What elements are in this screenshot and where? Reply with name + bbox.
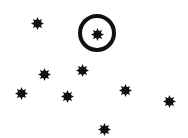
star-icon [98,123,111,136]
star-field-diagram [0,0,188,138]
star-icon [163,95,176,108]
star-icon [38,68,51,81]
star-icon [15,87,28,100]
star-icon [91,28,104,41]
star-icon [119,84,132,97]
star-icon [31,17,44,30]
star-icon [61,90,74,103]
star-icon [76,64,89,77]
